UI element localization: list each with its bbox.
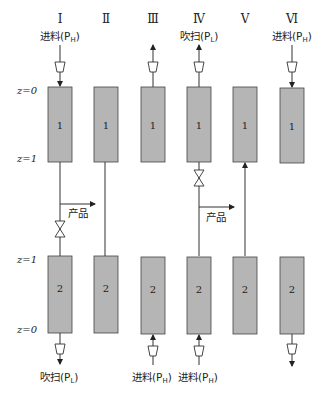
check-valve-icon [55, 344, 65, 354]
bed-1-label: 1 [57, 120, 63, 131]
bed-2-step-1 [48, 256, 72, 333]
step-3-feed-label: 进料(PH) [132, 371, 172, 385]
bed-2-label: 2 [150, 284, 156, 295]
step-6-numeral: Ⅵ [285, 12, 298, 26]
step-1-purge-out-label: 吹扫(PL) [40, 371, 78, 385]
z0-bottom-label: z=0 [16, 324, 38, 335]
bed-2-step-3 [141, 257, 165, 334]
bed-2-step-6 [280, 257, 304, 334]
check-valve-icon [287, 62, 297, 72]
step-1-feed-label: 进料(PH) [40, 30, 80, 44]
step-6-feed-label: 进料(PH) [272, 30, 312, 44]
bed-2-label: 2 [242, 284, 248, 295]
check-valve-icon [55, 62, 65, 72]
step-4-feed-label: 进料(PH) [178, 371, 218, 385]
psa-cycle-diagram: Ⅰ Ⅱ Ⅲ Ⅳ Ⅴ Ⅵ 进料(PH) 吹扫(PL) 进料(PH) z=0 z=1… [0, 0, 319, 393]
step-2-numeral: Ⅱ [102, 12, 110, 26]
z1-top-label: z=1 [16, 153, 37, 164]
bed-1-label: 1 [196, 120, 202, 131]
check-valve-icon [194, 346, 204, 356]
bed-2-label: 2 [289, 284, 295, 295]
step-1-product-label: 产品 [68, 207, 88, 219]
step-4-numeral: Ⅳ [193, 12, 206, 26]
bed-1-label: 1 [289, 121, 295, 132]
bed-2-step-5 [233, 257, 257, 334]
bottom-beds [48, 256, 304, 334]
shutoff-valve-icon [194, 170, 204, 186]
bed-2-label: 2 [103, 283, 109, 294]
step-5-numeral: Ⅴ [240, 12, 250, 26]
bed-2-step-4 [187, 257, 211, 334]
bed-2-step-2 [94, 256, 118, 333]
top-beds [48, 87, 304, 163]
check-valve-icon [194, 62, 204, 72]
bed-1-label: 1 [150, 120, 156, 131]
check-valve-icon [148, 346, 158, 356]
bed-2-label: 2 [196, 284, 202, 295]
step-4-purge-label: 吹扫(PL) [180, 30, 218, 44]
step-4-product-label: 产品 [206, 211, 226, 223]
step-3-numeral: Ⅲ [147, 12, 159, 26]
bed-1-label: 1 [103, 120, 109, 131]
z1-bottom-label: z=1 [16, 254, 37, 265]
step-1-numeral: Ⅰ [58, 12, 63, 26]
shutoff-valve-icon [55, 221, 65, 237]
check-valve-icon [287, 344, 297, 354]
bed-1-label: 1 [242, 120, 248, 131]
z0-top-label: z=0 [16, 85, 38, 96]
bed-2-label: 2 [57, 283, 63, 294]
check-valve-icon [148, 62, 158, 72]
